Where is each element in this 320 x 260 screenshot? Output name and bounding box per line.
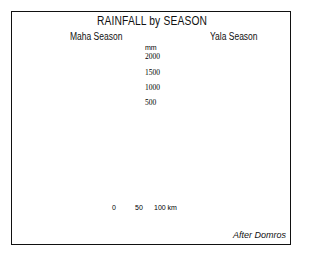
- scale-tick-100km: 100 km: [154, 204, 177, 211]
- legend-tick-2000: 2000: [145, 52, 160, 61]
- scale-tick-0: 0: [112, 204, 116, 211]
- scale-tick-50: 50: [135, 204, 143, 211]
- legend-tick-1500: 1500: [145, 68, 160, 77]
- figure-title: RAINFALL by SEASON: [27, 14, 276, 28]
- legend-unit: mm: [145, 44, 157, 51]
- legend-tick-500: 500: [145, 98, 156, 107]
- legend-tick-1000: 1000: [145, 83, 160, 92]
- yala-season-label: Yala Season: [210, 31, 258, 42]
- source-credit: After Domros: [233, 230, 286, 240]
- maha-season-label: Maha Season: [70, 31, 122, 42]
